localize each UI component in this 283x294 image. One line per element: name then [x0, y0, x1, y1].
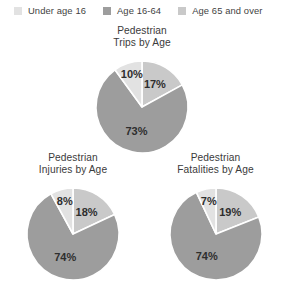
- pie-svg-injuries: 18%74%8%: [21, 181, 125, 285]
- pie-slice-label: 10%: [121, 68, 143, 80]
- pie-slice-label: 18%: [76, 205, 98, 217]
- pie-chart-trips-by-age: Pedestrian Trips by Age 17%73%10%: [73, 25, 211, 158]
- pie-canvas-trips: 17%73%10%: [90, 54, 194, 158]
- pie-slice-label: 19%: [219, 206, 241, 218]
- legend-item-under-age-16: Under age 16: [14, 6, 86, 16]
- pedestrian-age-pie-chart-figure: Under age 16 Age 16-64 Age 65 and over P…: [0, 0, 283, 294]
- pie-svg-fatalities: 19%74%7%: [164, 181, 268, 285]
- pie-slice-label: 73%: [125, 124, 147, 136]
- pie-chart-injuries-by-age: Pedestrian Injuries by Age 18%74%8%: [2, 152, 144, 285]
- chart-legend: Under age 16 Age 16-64 Age 65 and over: [0, 0, 283, 22]
- pie-slice-label: 8%: [57, 195, 73, 207]
- legend-item-age-65-and-over: Age 65 and over: [178, 6, 262, 16]
- pie-slice-label: 7%: [200, 194, 216, 206]
- legend-label-age-65-and-over: Age 65 and over: [192, 6, 262, 16]
- legend-item-age-16-64: Age 16-64: [103, 6, 161, 16]
- pie-slice-label: 74%: [54, 251, 76, 263]
- legend-swatch-age-16-64: [103, 7, 111, 15]
- legend-swatch-age-65-and-over: [178, 7, 186, 15]
- pie-svg-trips: 17%73%10%: [90, 54, 194, 158]
- pie-canvas-injuries: 18%74%8%: [21, 181, 125, 285]
- pie-chart-fatalities-by-age: Pedestrian Fatalities by Age 19%74%7%: [148, 152, 283, 285]
- chart-title-fatalities: Pedestrian Fatalities by Age: [148, 152, 283, 177]
- legend-label-under-age-16: Under age 16: [28, 6, 86, 16]
- legend-label-age-16-64: Age 16-64: [117, 6, 161, 16]
- pie-canvas-fatalities: 19%74%7%: [164, 181, 268, 285]
- legend-swatch-under-age-16: [14, 7, 22, 15]
- pie-slice-label: 74%: [195, 250, 217, 262]
- chart-title-injuries: Pedestrian Injuries by Age: [2, 152, 144, 177]
- chart-title-trips: Pedestrian Trips by Age: [73, 25, 211, 50]
- pie-slice-label: 17%: [144, 78, 166, 90]
